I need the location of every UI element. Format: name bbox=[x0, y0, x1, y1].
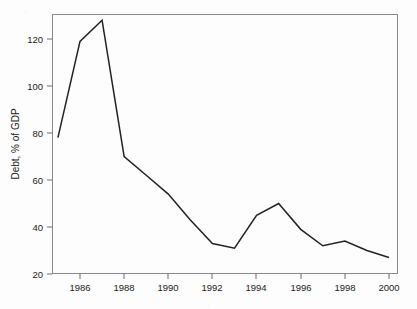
x-tick-label-1992: 1992 bbox=[201, 282, 222, 293]
x-tick-label-2000: 2000 bbox=[378, 282, 399, 293]
y-tick-label-20: 20 bbox=[32, 269, 43, 280]
x-tick-label-1996: 1996 bbox=[290, 282, 311, 293]
y-tick-label-40: 40 bbox=[32, 222, 43, 233]
chart-background bbox=[0, 0, 417, 309]
x-tick-label-1986: 1986 bbox=[69, 282, 90, 293]
x-tick-label-1990: 1990 bbox=[157, 282, 178, 293]
y-axis-title: Debt, % of GDP bbox=[10, 108, 21, 179]
debt-line-chart: 120 100 80 60 40 20 1986 1988 1990 1992 … bbox=[0, 0, 417, 309]
x-tick-label-1994: 1994 bbox=[245, 282, 266, 293]
x-tick-label-1998: 1998 bbox=[334, 282, 355, 293]
y-tick-label-120: 120 bbox=[27, 34, 43, 45]
x-tick-label-1988: 1988 bbox=[113, 282, 134, 293]
chart-page: 120 100 80 60 40 20 1986 1988 1990 1992 … bbox=[0, 0, 417, 309]
y-tick-label-80: 80 bbox=[32, 128, 43, 139]
y-tick-label-100: 100 bbox=[27, 81, 43, 92]
y-tick-label-60: 60 bbox=[32, 175, 43, 186]
